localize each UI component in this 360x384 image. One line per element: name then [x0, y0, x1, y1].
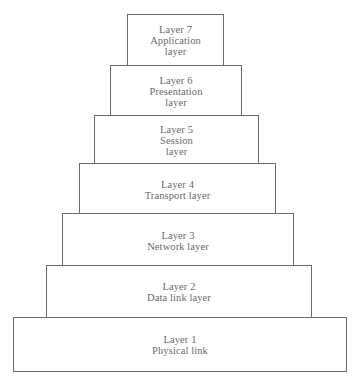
layer-5-box: Layer 5 Session layer — [94, 115, 259, 166]
layer-7-box: Layer 7 Application layer — [127, 14, 224, 67]
layer-6-box: Layer 6 Presentation layer — [110, 65, 242, 117]
layer-7-number: Layer 7 — [159, 24, 192, 35]
layer-1-number: Layer 1 — [163, 334, 196, 345]
layer-4-name: Transport layer — [145, 190, 211, 201]
layer-5-name-line-1: Session — [160, 135, 193, 146]
layer-2-number: Layer 2 — [162, 281, 195, 292]
osi-layer-pyramid: Layer 7 Application layer Layer 6 Presen… — [0, 0, 360, 384]
layer-2-name: Data link layer — [147, 292, 211, 303]
layer-5-name-line-2: layer — [166, 146, 188, 157]
layer-3-number: Layer 3 — [161, 230, 194, 241]
layer-4-box: Layer 4 Transport layer — [79, 163, 276, 217]
layer-6-name-line-2: layer — [165, 97, 187, 108]
layer-6-name-line-1: Presentation — [149, 86, 202, 97]
layer-2-box: Layer 2 Data link layer — [46, 265, 312, 318]
layer-3-name: Network layer — [147, 241, 209, 252]
layer-1-box: Layer 1 Physical link — [13, 317, 347, 372]
layer-3-box: Layer 3 Network layer — [62, 213, 294, 268]
layer-6-number: Layer 6 — [159, 75, 192, 86]
layer-5-number: Layer 5 — [160, 124, 193, 135]
layer-4-number: Layer 4 — [161, 179, 194, 190]
layer-1-name: Physical link — [152, 345, 208, 356]
layer-7-name-line-1: Application — [150, 35, 201, 46]
layer-7-name-line-2: layer — [165, 46, 187, 57]
